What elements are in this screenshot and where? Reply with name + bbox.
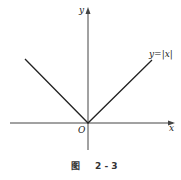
function-label: y=|x|	[148, 49, 173, 60]
y-axis-label: y	[78, 5, 85, 15]
x-axis-label: x	[169, 123, 174, 133]
y-axis-arrow-icon	[86, 7, 91, 14]
origin-label: O	[78, 125, 86, 135]
abs-value-graph: y x O y=|x| 图 2 - 3	[0, 0, 181, 180]
figure-caption-prefix: 图	[71, 161, 80, 171]
figure-caption-number: 2 - 3	[95, 161, 118, 171]
